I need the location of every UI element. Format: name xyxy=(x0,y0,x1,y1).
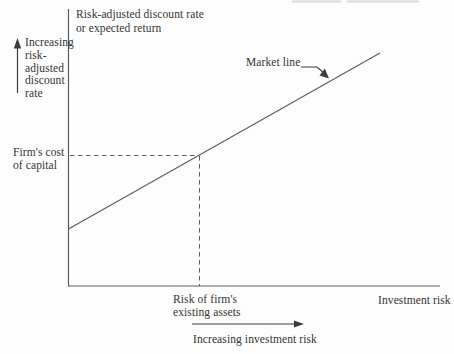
market-line xyxy=(69,53,381,229)
x-increase-label: Increasing investment risk xyxy=(193,333,317,346)
y-increase-label-line1: Increasing xyxy=(25,36,74,49)
y-increase-label-line3: adjusted xyxy=(25,62,74,75)
existing-assets-label-line1: Risk of firm's xyxy=(173,293,241,306)
firms-cost-label: Firm's cost of capital xyxy=(13,146,64,172)
y-axis-title-line2: or expected return xyxy=(76,21,204,35)
y-increase-arrowhead-icon xyxy=(14,38,21,49)
x-increase-arrowhead-icon xyxy=(294,321,304,328)
firms-cost-label-line1: Firm's cost xyxy=(13,146,64,159)
existing-assets-label: Risk of firm's existing assets xyxy=(173,293,241,319)
firms-cost-label-line2: of capital xyxy=(13,159,64,172)
x-axis-label: Investment risk xyxy=(378,294,451,307)
y-increase-label-line2: risk- xyxy=(25,49,74,62)
y-increase-label-line5: rate xyxy=(25,87,74,100)
market-line-figure: Risk-adjusted discount rate or expected … xyxy=(0,0,454,354)
market-line-label: Market line xyxy=(246,56,300,69)
existing-assets-label-line2: existing assets xyxy=(173,306,241,319)
market-line-callout-arrow-shaft xyxy=(301,67,325,74)
y-increase-label-line4: discount xyxy=(25,74,74,87)
y-increase-label: Increasing risk- adjusted discount rate xyxy=(25,36,74,100)
y-axis-title-line1: Risk-adjusted discount rate xyxy=(76,7,204,21)
y-axis-title: Risk-adjusted discount rate or expected … xyxy=(76,7,204,35)
